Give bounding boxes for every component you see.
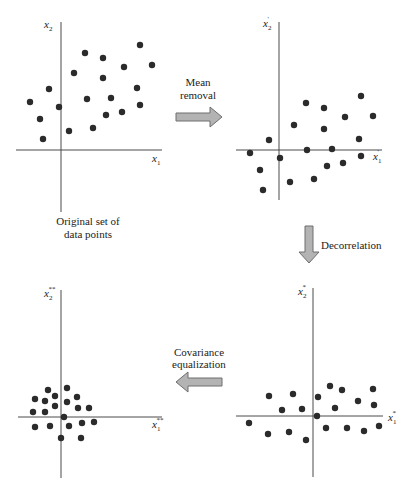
data-point xyxy=(260,187,266,193)
data-point xyxy=(52,393,58,399)
data-point xyxy=(42,409,48,415)
data-point xyxy=(247,150,253,156)
data-point xyxy=(291,122,297,128)
data-point xyxy=(108,95,114,101)
panel-mean-removed: x2' x1' xyxy=(236,15,382,200)
data-point xyxy=(339,387,345,393)
data-point xyxy=(304,147,310,153)
data-point xyxy=(137,102,143,108)
x1-prime-axis-label: x1' xyxy=(372,148,382,165)
data-point xyxy=(303,437,309,443)
data-point xyxy=(279,407,285,413)
data-point xyxy=(71,70,77,76)
data-point xyxy=(376,423,382,429)
data-point xyxy=(45,387,51,393)
data-point xyxy=(40,136,46,142)
transition-mean-removal: Mean removal xyxy=(176,76,222,127)
data-point xyxy=(66,423,72,429)
data-points xyxy=(247,93,376,193)
data-point xyxy=(74,394,80,400)
x1-axis-label: x1 xyxy=(151,152,161,167)
data-point xyxy=(315,394,321,400)
data-point xyxy=(356,136,362,142)
data-point xyxy=(323,425,329,431)
data-point xyxy=(371,402,377,408)
data-point xyxy=(370,386,376,392)
left-arrow-icon xyxy=(176,372,222,392)
data-point xyxy=(321,126,327,132)
data-point xyxy=(84,96,90,102)
data-point xyxy=(66,128,72,134)
data-point xyxy=(32,424,38,430)
data-point xyxy=(149,62,155,68)
data-point xyxy=(103,112,109,118)
data-point xyxy=(56,104,62,110)
data-point xyxy=(75,405,81,411)
data-point xyxy=(314,413,320,419)
data-point xyxy=(42,398,48,404)
right-arrow-icon xyxy=(176,107,222,127)
data-point xyxy=(287,179,293,185)
panel-covariance-equalized: x2** x1** xyxy=(18,285,164,478)
data-point xyxy=(79,420,85,426)
x2-star-axis-label: x2* xyxy=(297,283,307,300)
data-point xyxy=(100,75,106,81)
x2-prime-axis-label: x2' xyxy=(262,15,272,32)
data-point xyxy=(134,85,140,91)
data-point xyxy=(100,55,106,61)
panel-original: x2 x1 Original set of data points xyxy=(16,18,162,240)
whitening-process-diagram: x2 x1 Original set of data points Mean r… xyxy=(0,0,411,486)
data-point xyxy=(290,391,296,397)
data-point xyxy=(64,399,70,405)
data-point xyxy=(327,383,333,389)
data-point xyxy=(344,425,350,431)
data-point xyxy=(266,393,272,399)
data-points xyxy=(27,42,155,142)
data-point xyxy=(286,429,292,435)
x2-axis-label: x2 xyxy=(43,18,53,33)
x1-star-axis-label: x1* xyxy=(387,409,397,426)
data-point xyxy=(82,50,88,56)
data-point xyxy=(64,385,70,391)
transition-covariance-equalization: Covariance equalization xyxy=(172,346,226,392)
data-point xyxy=(370,113,376,119)
data-point xyxy=(355,398,361,404)
data-point xyxy=(137,42,143,48)
data-point xyxy=(91,419,97,425)
x2-double-star-axis-label: x2** xyxy=(43,285,56,302)
data-point xyxy=(299,406,305,412)
data-point xyxy=(52,403,58,409)
data-point xyxy=(340,160,346,166)
caption-line-2: data points xyxy=(64,228,112,240)
data-point xyxy=(61,414,67,420)
data-point xyxy=(332,405,338,411)
data-point xyxy=(37,116,43,122)
data-point xyxy=(78,435,84,441)
covariance-equalization-label-line-2: equalization xyxy=(172,358,226,370)
decorrelation-label: Decorrelation xyxy=(321,239,382,251)
transition-decorrelation: Decorrelation xyxy=(299,226,382,263)
data-point xyxy=(311,176,317,182)
mean-removal-label-line-1: Mean xyxy=(185,76,211,88)
data-point xyxy=(303,100,309,106)
data-points xyxy=(30,385,97,441)
data-point xyxy=(32,396,38,402)
caption-line-1: Original set of xyxy=(56,215,120,227)
data-point xyxy=(30,409,36,415)
data-point xyxy=(277,155,283,161)
data-point xyxy=(46,86,52,92)
data-point xyxy=(321,105,327,111)
data-point xyxy=(119,109,125,115)
data-point xyxy=(342,114,348,120)
data-point xyxy=(86,405,92,411)
data-point xyxy=(257,167,263,173)
data-point xyxy=(265,431,271,437)
data-point xyxy=(358,93,364,99)
data-point xyxy=(121,64,127,70)
data-point xyxy=(27,99,33,105)
data-point xyxy=(361,428,367,434)
data-point xyxy=(90,125,96,131)
data-point xyxy=(266,137,272,143)
x1-double-star-axis-label: x1** xyxy=(151,416,164,433)
data-points xyxy=(246,383,382,443)
